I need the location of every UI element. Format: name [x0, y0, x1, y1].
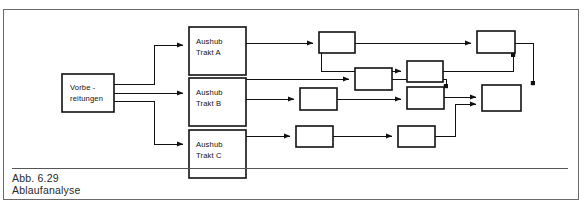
node-a2[interactable] — [407, 61, 443, 82]
node-vorbereitungen[interactable]: Vorbe - reitungen — [62, 74, 114, 112]
node-aushub-trakt-b-line1: Aushub — [196, 88, 223, 97]
node-c1[interactable] — [296, 126, 333, 147]
node-b3[interactable] — [407, 87, 444, 109]
edge-start-to-trakt-a — [114, 45, 183, 84]
node-a1[interactable] — [319, 32, 355, 53]
node-aushub-trakt-a-line2: Trakt A — [196, 48, 222, 57]
node-aushub-trakt-b[interactable]: Aushub Trakt B — [189, 78, 246, 126]
node-b2[interactable] — [300, 88, 337, 110]
node-vorbereitungen-line1: Vorbe - — [70, 83, 96, 92]
edge-node-a2-to-node-a3 — [443, 55, 513, 71]
edge-start-to-trakt-c — [114, 101, 183, 144]
node-aushub-trakt-a[interactable]: Aushub Trakt A — [189, 27, 246, 75]
node-aushub-trakt-c-line1: Aushub — [196, 140, 223, 149]
node-aushub-trakt-b-line2: Trakt B — [196, 99, 221, 108]
node-end[interactable] — [482, 85, 521, 111]
node-vorbereitungen-line2: reitungen — [70, 94, 103, 103]
node-c2[interactable] — [398, 126, 435, 147]
node-b1[interactable] — [355, 68, 392, 90]
node-a3[interactable] — [477, 31, 515, 53]
nodes-group: Vorbe - reitungen Aushub Trakt A Aushub … — [62, 27, 521, 178]
figure-caption: Abb. 6.29 Ablaufanalyse — [12, 172, 412, 196]
node-aushub-trakt-c-line2: Trakt C — [196, 151, 222, 160]
node-aushub-trakt-a-line1: Aushub — [196, 37, 223, 46]
edge-node-a3-to-node-end — [515, 43, 533, 83]
caption-title: Ablaufanalyse — [12, 184, 412, 196]
caption-number: Abb. 6.29 — [12, 172, 412, 184]
figure-page: Vorbe - reitungen Aushub Trakt A Aushub … — [0, 0, 585, 211]
caption-divider — [12, 168, 568, 169]
node-aushub-trakt-c[interactable]: Aushub Trakt C — [189, 130, 246, 178]
